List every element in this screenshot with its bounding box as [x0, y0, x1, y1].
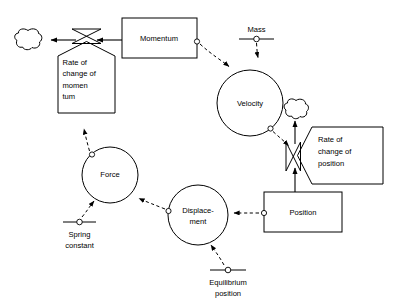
- rate-of-change-of-position: Rate of change of position: [286, 127, 383, 184]
- rate-of-change-of-position-label-line-1: change of: [318, 147, 352, 156]
- rate-of-change-of-momentum-label-line-0: Rate of: [63, 58, 88, 67]
- cloud-left: [15, 29, 42, 50]
- aux-force-label: Force: [100, 170, 119, 179]
- system-dynamics-diagram: Rate of change of momen tum Momentum Mas…: [0, 0, 394, 308]
- aux-force: Force: [82, 147, 138, 203]
- parameter-equilibrium-position-label-line-0: Equilibrium: [209, 278, 247, 287]
- parameter-mass: Mass: [239, 25, 274, 42]
- parameter-spring-constant-label-line-1: constant: [65, 241, 95, 250]
- aux-displacement: Displace- ment: [166, 185, 228, 245]
- momentum-takeoff-icon: [194, 39, 199, 44]
- parameter-mass-label: Mass: [247, 25, 265, 34]
- cloud-right: [284, 99, 308, 119]
- parameter-equilibrium-position-label-line-1: position: [215, 289, 241, 298]
- link-mass-velocity: [257, 43, 259, 58]
- force-takeoff-icon: [89, 152, 94, 157]
- equilibrium-position-constant-icon: [225, 267, 231, 273]
- aux-displacement-label-line-0: Displace-: [182, 206, 214, 215]
- link-spring-constant-force: [82, 201, 94, 217]
- stock-momentum-label: Momentum: [140, 34, 178, 43]
- link-equilibrium-displacement: [211, 245, 224, 265]
- displacement-takeoff-icon: [166, 208, 171, 213]
- stock-position: Position: [261, 192, 342, 232]
- aux-displacement-label-line-1: ment: [190, 217, 208, 226]
- rate-of-change-of-momentum: Rate of change of momen tum: [58, 29, 115, 113]
- parameter-equilibrium-position: Equilibrium position: [209, 267, 247, 298]
- stock-position-label: Position: [289, 208, 316, 217]
- link-momentum-velocity: [200, 44, 229, 67]
- spring-constant-constant-icon: [77, 219, 83, 225]
- aux-velocity-label: Velocity: [237, 99, 263, 108]
- link-displacement-force: [139, 199, 165, 210]
- parameter-spring-constant-label-line-0: Spring: [69, 230, 91, 239]
- aux-velocity: Velocity: [217, 70, 283, 136]
- rate-of-change-of-position-label-line-2: position: [318, 159, 344, 168]
- mass-constant-icon: [254, 36, 260, 42]
- position-takeoff-icon: [261, 210, 266, 215]
- stock-momentum: Momentum: [122, 18, 200, 58]
- rate-of-change-of-momentum-label-line-3: tum: [63, 92, 76, 101]
- rate-of-change-of-momentum-label-line-1: change of: [63, 69, 97, 78]
- rate-of-change-of-momentum-label-line-2: momen: [63, 81, 88, 90]
- diagram-canvas: Rate of change of momen tum Momentum Mas…: [0, 0, 394, 308]
- velocity-takeoff-icon: [268, 126, 273, 131]
- parameter-spring-constant: Spring constant: [63, 219, 96, 250]
- link-force-rate-of-change-of-momentum: [84, 129, 90, 151]
- rate-of-change-of-position-label-line-0: Rate of: [318, 135, 343, 144]
